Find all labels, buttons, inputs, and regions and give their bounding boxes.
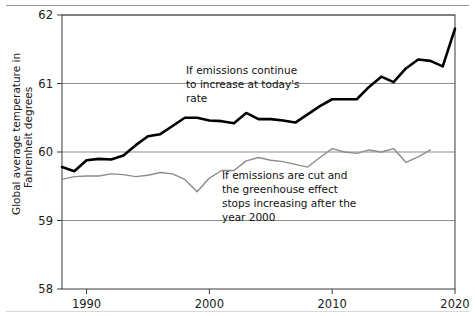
upper-annotation: If emissions continue to increase at tod… [186, 64, 300, 104]
upper-annotation-line-3: rate [186, 92, 207, 104]
y-axis-ticks: 5859606162 [38, 8, 62, 296]
y-axis-title-line-2: Fahrenheit degrees [22, 87, 34, 188]
series-line-high-emissions [62, 29, 455, 171]
lower-annotation: If emissions are cut and the greenhouse … [222, 169, 356, 223]
upper-annotation-line-1: If emissions continue [186, 64, 297, 76]
lower-annotation-line-4: year 2000 [222, 211, 275, 223]
x-axis-ticks: 1990200020102020 [72, 289, 470, 311]
chart-figure: Global average temperature in Fahrenheit… [0, 0, 475, 316]
data-series-layer [62, 29, 455, 192]
x-tick-label-2020: 2020 [440, 297, 469, 311]
x-tick-label-2010: 2010 [318, 297, 347, 311]
x-tick-label-2000: 2000 [195, 297, 224, 311]
y-tick-label-62: 62 [38, 8, 53, 22]
lower-annotation-line-1: If emissions are cut and [222, 169, 347, 181]
y-tick-label-58: 58 [38, 282, 53, 296]
y-tick-label-59: 59 [38, 214, 53, 228]
upper-annotation-line-2: to increase at today's [186, 78, 300, 90]
y-tick-label-60: 60 [38, 145, 53, 159]
lower-annotation-line-3: stops increasing after the [222, 197, 356, 209]
y-axis-title: Global average temperature in Fahrenheit… [10, 53, 34, 215]
temperature-projection-line-chart: Global average temperature in Fahrenheit… [0, 0, 475, 316]
y-tick-label-61: 61 [38, 77, 53, 91]
y-axis-title-line-1: Global average temperature in [10, 53, 22, 215]
x-tick-label-1990: 1990 [72, 297, 101, 311]
lower-annotation-line-2: the greenhouse effect [222, 183, 338, 195]
bottom-divider-rule [6, 311, 469, 312]
top-divider-rule [6, 5, 469, 6]
